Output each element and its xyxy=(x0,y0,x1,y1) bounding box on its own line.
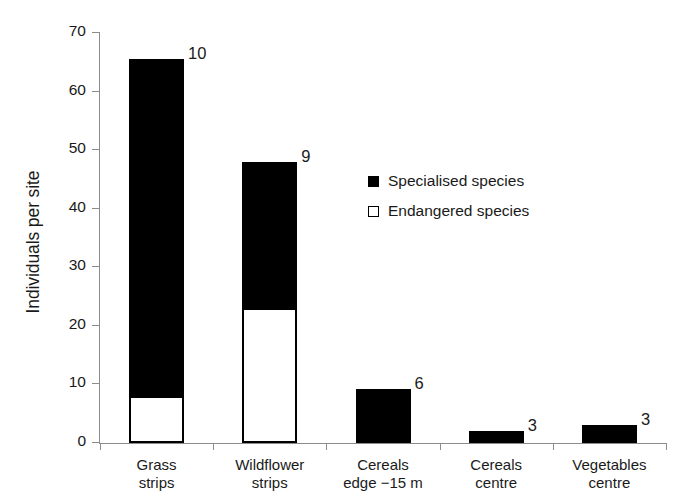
bar-segment-endangered[interactable] xyxy=(129,396,184,443)
bar-value-label: 9 xyxy=(301,147,310,166)
y-axis-tick-label: 70 xyxy=(69,22,86,40)
x-axis-tick xyxy=(326,443,327,450)
y-axis-tick: 60 xyxy=(92,91,100,92)
x-axis-label-line: centre xyxy=(553,474,666,492)
x-axis-label-line: strips xyxy=(100,474,213,492)
bar-segment-specialised[interactable] xyxy=(469,431,524,439)
y-axis-tick-label: 10 xyxy=(69,373,86,391)
x-axis-label-line: Cereals xyxy=(440,456,553,474)
bar-value-label: 3 xyxy=(641,410,650,429)
x-axis-label: Cerealscentre xyxy=(440,456,553,491)
y-axis-tick-label: 30 xyxy=(69,256,86,274)
y-axis-title: Individuals per site xyxy=(14,22,52,462)
y-axis-tick: 40 xyxy=(92,208,100,209)
x-axis-tick xyxy=(553,443,554,450)
bar-segment-endangered[interactable] xyxy=(469,439,524,443)
y-axis-tick: 30 xyxy=(92,266,100,267)
bar[interactable]: 9 xyxy=(242,162,297,443)
y-axis-tick-label: 20 xyxy=(69,315,86,333)
bar[interactable]: 3 xyxy=(582,425,637,443)
bar-segment-specialised[interactable] xyxy=(356,389,411,439)
x-axis-tick xyxy=(100,443,101,450)
legend-item[interactable]: Endangered species xyxy=(368,196,529,226)
bar-segment-specialised[interactable] xyxy=(129,59,184,396)
x-axis-label-line: edge −15 m xyxy=(326,474,439,492)
legend-swatch-specialised-icon xyxy=(368,176,379,187)
bar-segment-endangered[interactable] xyxy=(582,439,637,443)
bar-value-label: 3 xyxy=(528,416,537,435)
x-axis-label-line: Grass xyxy=(100,456,213,474)
y-axis-tick-label: 0 xyxy=(77,432,86,450)
bar-segment-endangered[interactable] xyxy=(356,439,411,443)
bar[interactable]: 6 xyxy=(356,389,411,443)
legend-label: Endangered species xyxy=(388,202,529,220)
y-axis-tick: 50 xyxy=(92,149,100,150)
bar-chart: Individuals per site 010203040506070 109… xyxy=(0,0,678,502)
x-axis-label-line: centre xyxy=(440,474,553,492)
y-axis-line xyxy=(99,33,100,444)
plot-area: 010203040506070 109633 GrassstripsWildfl… xyxy=(100,33,666,443)
x-axis-label-line: Vegetables xyxy=(553,456,666,474)
y-axis-tick: 0 xyxy=(92,442,100,443)
y-axis-tick: 10 xyxy=(92,383,100,384)
y-axis-tick: 20 xyxy=(92,325,100,326)
y-axis-tick-label: 60 xyxy=(69,81,86,99)
legend-label: Specialised species xyxy=(388,172,524,190)
x-axis-label: Vegetablescentre xyxy=(553,456,666,491)
x-axis-tick xyxy=(440,443,441,450)
y-axis-tick-label: 50 xyxy=(69,139,86,157)
x-axis-label-line: strips xyxy=(213,474,326,492)
legend-swatch-endangered-icon xyxy=(368,206,379,217)
bar[interactable]: 10 xyxy=(129,59,184,443)
y-axis-tick: 70 xyxy=(92,32,100,33)
x-axis-label-line: Wildflower xyxy=(213,456,326,474)
bar-value-label: 6 xyxy=(415,374,424,393)
chart-legend: Specialised speciesEndangered species xyxy=(368,166,529,226)
bar-segment-endangered[interactable] xyxy=(242,308,297,443)
x-axis-label: Wildflowerstrips xyxy=(213,456,326,491)
bar-value-label: 10 xyxy=(188,44,206,63)
legend-item[interactable]: Specialised species xyxy=(368,166,529,196)
x-axis-label: Grassstrips xyxy=(100,456,213,491)
x-axis-label: Cerealsedge −15 m xyxy=(326,456,439,491)
x-axis-tick xyxy=(666,443,667,450)
x-axis-tick xyxy=(213,443,214,450)
y-axis-tick-label: 40 xyxy=(69,198,86,216)
bar[interactable]: 3 xyxy=(469,431,524,443)
x-axis-label-line: Cereals xyxy=(326,456,439,474)
bar-segment-specialised[interactable] xyxy=(582,425,637,438)
bar-segment-specialised[interactable] xyxy=(242,162,297,308)
x-axis-line xyxy=(99,443,666,444)
